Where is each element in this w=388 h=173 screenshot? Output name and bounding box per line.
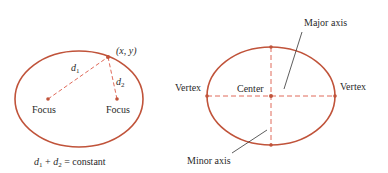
center-label: Center <box>237 84 264 94</box>
d2-label: d2 <box>116 77 125 89</box>
point-label: (x, y) <box>116 46 137 56</box>
major-axis-label: Major axis <box>304 18 347 28</box>
center-dot <box>269 94 273 98</box>
focus-left-dot <box>46 97 50 101</box>
minor-axis-label: Minor axis <box>187 156 231 166</box>
vertex-left-label: Vertex <box>175 83 201 93</box>
major-axis-leader <box>284 32 302 89</box>
focus-right-label: Focus <box>106 105 130 115</box>
focus-left-label: Focus <box>32 105 56 115</box>
point-xy-dot <box>106 55 110 59</box>
top-covertex-dot <box>269 45 273 49</box>
minor-axis-leader <box>232 130 267 153</box>
focus-right-dot <box>115 97 119 101</box>
vertex-right-label: Vertex <box>340 82 366 92</box>
vertex-left-dot <box>205 94 209 98</box>
vertex-right-dot <box>333 94 337 98</box>
d1-label: d1 <box>71 63 80 75</box>
sum-equation: d1 + d2 = constant <box>34 157 106 169</box>
bottom-covertex-dot <box>269 143 273 147</box>
